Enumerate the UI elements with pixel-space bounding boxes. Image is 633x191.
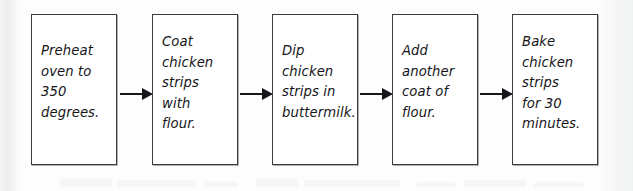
flowchart-step-5[interactable]: Bake chicken strips for 30 minutes. <box>512 14 598 165</box>
flowchart-step-1-text: Preheat oven to 350 degrees. <box>41 41 112 123</box>
flowchart-step-1[interactable]: Preheat oven to 350 degrees. <box>31 14 117 165</box>
scanned-page: Preheat oven to 350 degrees. Coat chicke… <box>0 0 633 191</box>
arrow-shaft-icon <box>480 93 504 95</box>
flowchart-arrow-3 <box>360 87 394 101</box>
flowchart-step-2[interactable]: Coat chicken strips with flour. <box>152 14 238 165</box>
arrow-shaft-icon <box>240 93 264 95</box>
flowchart-arrow-1 <box>120 87 154 101</box>
flowchart-step-2-text: Coat chicken strips with flour. <box>162 32 233 135</box>
flowchart-arrow-4 <box>480 87 514 101</box>
flowchart-step-4[interactable]: Add another coat of flour. <box>392 14 478 165</box>
arrow-shaft-icon <box>360 93 384 95</box>
flowchart-step-3-text: Dip chicken strips in buttermilk. <box>282 41 353 123</box>
flowchart-arrow-2 <box>240 87 274 101</box>
flowchart-step-3[interactable]: Dip chicken strips in buttermilk. <box>272 14 358 165</box>
flowchart-step-5-text: Bake chicken strips for 30 minutes. <box>522 32 593 135</box>
flowchart: Preheat oven to 350 degrees. Coat chicke… <box>0 0 633 191</box>
flowchart-step-4-text: Add another coat of flour. <box>402 41 473 123</box>
arrow-shaft-icon <box>120 93 144 95</box>
